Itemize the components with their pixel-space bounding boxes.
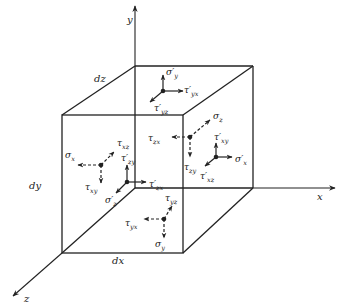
x-axis-label: x <box>317 191 323 202</box>
svg-text:τxz: τxz <box>117 138 130 151</box>
svg-text:σz: σz <box>213 111 223 124</box>
svg-text:τxy: τxy <box>85 182 98 195</box>
back-face-stresses: σz τzx τzy <box>148 111 223 175</box>
svg-text:τzx: τzx <box>148 133 160 146</box>
tau-xz-prime-arrow <box>205 157 216 166</box>
tau-yz-arrow <box>164 206 172 219</box>
sigma-z-prime-arrow <box>116 182 127 193</box>
front-face-stresses: τ′zy τ′zx σ′z <box>105 153 163 208</box>
svg-text:τyx: τyx <box>125 218 138 231</box>
cube-element <box>62 66 253 253</box>
svg-text:σy: σy <box>155 239 165 252</box>
dy-label: dy <box>29 180 41 191</box>
tau-yz-prime-arrow <box>150 91 163 102</box>
z-axis-label: z <box>23 293 30 304</box>
svg-text:τ′zx: τ′zx <box>149 179 163 192</box>
sigma-z-arrow <box>190 120 210 137</box>
svg-text:τyz: τyz <box>165 193 178 206</box>
svg-text:τ′yx: τ′yx <box>184 85 199 98</box>
right-face-stresses: τ′xy σ′x τ′xz <box>200 132 247 184</box>
z-axis <box>13 253 62 296</box>
dz-label: dz <box>94 73 106 84</box>
coordinate-axes: y x z <box>13 6 335 304</box>
svg-text:σ′x: σ′x <box>235 154 247 167</box>
tau-xz-arrow <box>101 152 114 165</box>
svg-text:τ′zy: τ′zy <box>121 153 135 166</box>
y-axis-label: y <box>126 14 133 25</box>
svg-text:τ′xz: τ′xz <box>200 171 215 184</box>
svg-text:σ′y: σ′y <box>166 67 178 80</box>
left-face-stresses: σx τxz τxy <box>65 138 130 195</box>
bottom-face-stresses: τyz τyx σy <box>125 193 178 252</box>
stress-element-diagram: y x z dz dy dx σ′y τ′yx τ′yz <box>0 0 344 307</box>
svg-text:σx: σx <box>65 150 75 163</box>
svg-text:τ′yz: τ′yz <box>154 103 169 116</box>
svg-text:σ′z: σ′z <box>105 195 117 208</box>
svg-text:τzy: τzy <box>184 162 196 175</box>
dx-label: dx <box>112 255 124 266</box>
